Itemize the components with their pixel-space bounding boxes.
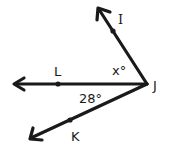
point-i — [110, 28, 115, 33]
label-k: K — [71, 130, 80, 143]
label-x-angle: x° — [112, 64, 126, 77]
point-l — [55, 81, 60, 86]
label-j: J — [153, 79, 157, 92]
label-l: L — [54, 65, 61, 78]
point-k — [67, 117, 72, 122]
angle-diagram — [0, 0, 170, 159]
label-i: I — [118, 13, 123, 26]
label-28-angle: 28° — [79, 92, 102, 105]
